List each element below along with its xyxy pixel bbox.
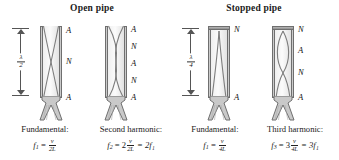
caption-open-second-harmonic: Second harmonic: — [84, 124, 178, 134]
antinode-label: A — [131, 59, 136, 68]
antinode-label: A — [298, 46, 303, 55]
standing-wave-pipe-figure: Open pipe Stopped pipe λ 2 λ 4 — [0, 0, 339, 160]
eq-denominator: 4L — [219, 146, 226, 153]
mouthpiece-stopped-fundamental — [204, 96, 234, 122]
antinode-label: A — [234, 93, 239, 102]
pipe-open-fundamental — [40, 26, 62, 98]
lambda-numerator: λ — [13, 54, 29, 61]
eq-subscript: 1 — [36, 144, 39, 150]
equation-stopped-fundamental: f1 = v 4L — [172, 138, 258, 152]
caption-open-fundamental: Fundamental: — [2, 124, 88, 134]
open-pipe-header: Open pipe — [48, 3, 136, 13]
mouthpiece-open-second-harmonic — [101, 96, 131, 122]
eq-tail: = 3f₁ — [301, 140, 319, 150]
eq-equals: = — [279, 140, 284, 150]
arrowhead-down-icon — [187, 90, 195, 95]
equation-open-second-harmonic: f2 = 2 v 2L = 2f₁ — [84, 138, 178, 152]
eq-subscript: 1 — [206, 144, 209, 150]
equation-open-fundamental: f1 = v 2L — [2, 138, 88, 152]
antinode-label: A — [66, 26, 71, 35]
mouthpiece-stopped-third-harmonic — [268, 96, 298, 122]
caption-stopped-third-harmonic: Third harmonic: — [252, 124, 338, 134]
eq-tail: = 2f₁ — [137, 140, 155, 150]
eq-fraction: v 4L — [219, 138, 226, 152]
eq-fraction: v 2L — [49, 138, 56, 152]
standing-wave-envelope — [40, 26, 62, 98]
eq-coefficient: 3 — [286, 140, 290, 150]
standing-wave-envelope — [105, 26, 127, 98]
pipe-open-second-harmonic — [105, 26, 127, 98]
lambda-denominator: 4 — [183, 63, 199, 70]
eq-subscript: 3 — [274, 144, 277, 150]
stopped-pipe-header: Stopped pipe — [205, 3, 303, 13]
arrowhead-up-icon — [187, 29, 195, 34]
eq-fraction: v 2L — [127, 138, 134, 152]
eq-equals: = — [41, 140, 46, 150]
node-label: N — [298, 68, 304, 77]
dimension-cap-bottom — [12, 95, 29, 96]
standing-wave-envelope — [208, 26, 230, 98]
eq-equals: = — [115, 140, 120, 150]
eq-denominator: 2L — [49, 146, 56, 153]
antinode-label: A — [131, 93, 136, 102]
node-label: N — [131, 42, 137, 51]
eq-denominator: 2L — [127, 146, 134, 153]
eq-coefficient: 2 — [122, 140, 126, 150]
equation-stopped-third-harmonic: f3 = 3 v 4L = 3f₁ — [252, 138, 338, 152]
arrowhead-up-icon — [17, 29, 25, 34]
antinode-label: A — [66, 93, 71, 102]
node-label: N — [298, 25, 304, 34]
lambda-denominator: 2 — [13, 63, 29, 70]
pipe-stopped-third-harmonic — [272, 26, 294, 98]
lambda-numerator: λ — [183, 54, 199, 61]
eq-fraction: v 4L — [291, 138, 298, 152]
antinode-label: A — [298, 93, 303, 102]
eq-denominator: 4L — [291, 146, 298, 153]
node-label: N — [66, 57, 72, 66]
dimension-cap-bottom — [182, 95, 199, 96]
pipe-stopped-fundamental — [208, 26, 230, 98]
standing-wave-envelope — [272, 26, 294, 98]
wavelength-half-dimension: λ 2 — [8, 28, 34, 96]
node-label: N — [234, 25, 240, 34]
lambda-over-four-label: λ 4 — [183, 53, 199, 70]
eq-equals: = — [211, 140, 216, 150]
arrowhead-down-icon — [17, 90, 25, 95]
caption-stopped-fundamental: Fundamental: — [172, 124, 258, 134]
lambda-over-two-label: λ 2 — [13, 53, 29, 70]
antinode-label: A — [131, 25, 136, 34]
eq-subscript: 2 — [110, 144, 113, 150]
mouthpiece-open-fundamental — [36, 96, 66, 122]
node-label: N — [131, 76, 137, 85]
wavelength-quarter-dimension: λ 4 — [178, 28, 204, 96]
